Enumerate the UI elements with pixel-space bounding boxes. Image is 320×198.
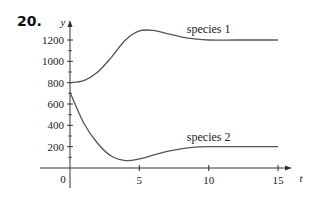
x-tick-label: 10	[203, 174, 215, 186]
series-lines	[70, 30, 278, 161]
x-axis-label: t	[299, 172, 303, 184]
y-axis-label: y	[60, 16, 66, 28]
x-tick-label: 5	[137, 174, 143, 186]
series-line-1	[70, 30, 278, 83]
series-line-2	[70, 92, 278, 160]
origin-label: 0	[60, 173, 66, 185]
y-tick-label: 200	[48, 141, 65, 153]
series-label-1: species 1	[187, 22, 231, 36]
y-tick-label: 400	[48, 119, 65, 131]
y-tick-label: 800	[48, 77, 65, 89]
y-tick-label: 1200	[42, 34, 65, 46]
series-label-2: species 2	[187, 130, 231, 144]
x-axis-arrow-icon	[285, 166, 292, 171]
x-tick-label: 15	[273, 174, 285, 186]
y-tick-label: 1000	[42, 55, 65, 67]
axes: 20040060080010001200510150yt	[40, 16, 303, 188]
chart: 20040060080010001200510150yt species 1sp…	[0, 0, 320, 198]
y-tick-label: 600	[48, 98, 65, 110]
y-axis-arrow-icon	[68, 20, 73, 27]
